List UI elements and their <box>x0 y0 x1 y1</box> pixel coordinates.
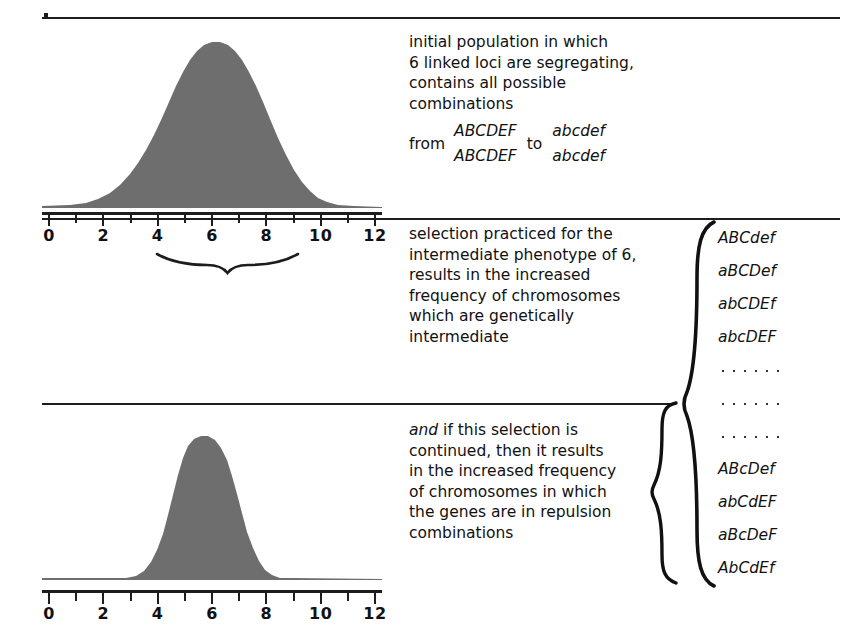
lead-rest: if this selection is <box>438 421 578 439</box>
caption-line: which are genetically <box>409 306 679 327</box>
axis-tick-major <box>265 215 267 226</box>
lead-italic-word: and <box>409 421 438 439</box>
caption-line: of chromosomes in which <box>409 482 681 503</box>
genotype-item: ABCdef <box>718 222 838 255</box>
axis-tick-major <box>374 215 376 226</box>
fraction-numerator: abcdef <box>550 121 607 142</box>
caption-line: contains all possible <box>409 73 709 94</box>
axis-tick-label: 4 <box>152 226 164 245</box>
caption-initial-population: initial population in which 6 linked loc… <box>409 32 709 167</box>
axis-tick-label: 4 <box>152 604 164 623</box>
axis-tick-major <box>211 593 213 604</box>
ellipsis-row <box>718 387 838 420</box>
axis-tick-label: 6 <box>206 226 218 245</box>
to-word: to <box>519 134 551 155</box>
axis-tick-major <box>157 593 159 604</box>
from-word: from <box>409 134 452 155</box>
axis-tick-major <box>320 215 322 226</box>
axis-tick-label: 2 <box>98 604 110 623</box>
axis-tick-label: 0 <box>43 604 55 623</box>
genotype-item: aBCDef <box>718 255 838 288</box>
axis-tick-major <box>211 215 213 226</box>
genotype-item: AbCdEf <box>718 552 838 585</box>
genotype-item: abcDEF <box>718 321 838 354</box>
axis-tick-minor <box>347 215 349 223</box>
fraction-denominator: ABCDEF <box>452 146 519 167</box>
axis-tick-minor <box>238 215 240 223</box>
fraction-all-recessive: abcdef abcdef <box>550 121 607 166</box>
caption-line: results in the increased <box>409 265 679 286</box>
ellipsis-row <box>718 420 838 453</box>
axis-tick-minor <box>75 593 77 601</box>
axis-tick-major <box>102 215 104 226</box>
caption-line-lead: and if this selection is <box>409 420 681 441</box>
initial-population-curve <box>42 22 382 208</box>
axis-tick-minor <box>130 593 132 601</box>
fraction-numerator: ABCDEF <box>452 121 519 142</box>
axis-tick-label: 12 <box>363 226 386 245</box>
axis-tick-minor <box>184 215 186 223</box>
selection-range-underbrace <box>155 250 300 280</box>
fraction-all-dominant: ABCDEF ABCDEF <box>452 121 519 166</box>
genotype-item: ABcDef <box>718 453 838 486</box>
selected-population-curve <box>42 408 382 580</box>
genotype-item: abCDEf <box>718 288 838 321</box>
caption-line: selection practiced for the <box>409 224 679 245</box>
caption-line: 6 linked loci are segregating, <box>409 53 709 74</box>
caption-selection: selection practiced for the intermediate… <box>409 224 679 348</box>
divider-lower <box>42 403 672 405</box>
axis-tick-minor <box>130 215 132 223</box>
axis-tick-major <box>265 593 267 604</box>
axis-tick-label: 6 <box>206 604 218 623</box>
genotype-item: abCdEF <box>718 486 838 519</box>
axis-tick-label: 2 <box>98 226 110 245</box>
divider-top <box>42 17 840 19</box>
axis-tick-label: 0 <box>43 226 55 245</box>
genotype-range-expression: from ABCDEF ABCDEF to abcdef abcdef <box>409 121 709 166</box>
ellipsis-row <box>718 354 838 387</box>
genotype-list: ABCdefaBCDefabCDEfabcDEFABcDefabCdEFaBcD… <box>718 222 838 585</box>
axis-tick-major <box>48 593 50 604</box>
axis-tick-minor <box>184 593 186 601</box>
axis-tick-label: 10 <box>309 604 332 623</box>
axis-top: 024681012 <box>42 206 382 252</box>
caption-continued-selection: and if this selection is continued, then… <box>409 420 681 544</box>
genotype-item: aBcDeF <box>718 519 838 552</box>
caption-line: continued, then it results <box>409 441 681 462</box>
axis-tick-label: 8 <box>261 226 273 245</box>
caption-line: initial population in which <box>409 32 709 53</box>
axis-tick-label: 10 <box>309 226 332 245</box>
axis-tick-minor <box>238 593 240 601</box>
caption-line: in the increased frequency <box>409 461 681 482</box>
brace-continued-selection <box>645 401 679 591</box>
axis-tick-minor <box>347 593 349 601</box>
caption-line: the genes are in repulsion <box>409 502 681 523</box>
caption-line: combinations <box>409 94 709 115</box>
caption-line: combinations <box>409 523 681 544</box>
axis-tick-minor <box>75 215 77 223</box>
divider-top-start-tick <box>44 13 48 18</box>
axis-tick-label: 8 <box>261 604 273 623</box>
axis-tick-major <box>374 593 376 604</box>
axis-tick-major <box>102 593 104 604</box>
axis-tick-major <box>320 593 322 604</box>
caption-line: intermediate phenotype of 6, <box>409 245 679 266</box>
caption-line: intermediate <box>409 327 679 348</box>
axis-tick-minor <box>293 593 295 601</box>
axis-tick-major <box>48 215 50 226</box>
fraction-denominator: abcdef <box>550 146 607 167</box>
axis-tick-minor <box>293 215 295 223</box>
brace-genotype-list <box>681 220 717 592</box>
caption-line: frequency of chromosomes <box>409 286 679 307</box>
axis-tick-label: 12 <box>363 604 386 623</box>
axis-tick-major <box>157 215 159 226</box>
axis-bottom: 024681012 <box>42 584 382 630</box>
figure-canvas: 024681012 024681012 initial population i… <box>0 0 847 632</box>
